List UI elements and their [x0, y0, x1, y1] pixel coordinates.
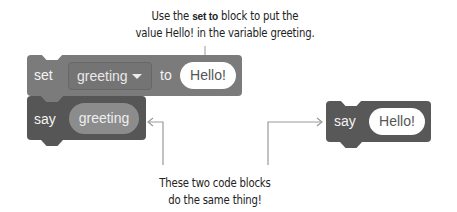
bottom-annotation-line1: These two code blocks: [131, 175, 298, 192]
say-keyword: say: [34, 111, 56, 127]
value-input[interactable]: Hello!: [180, 62, 236, 89]
left-arrow-line: [149, 122, 163, 165]
set-variable-block[interactable]: set greeting to Hello!: [27, 55, 242, 96]
say-variable-block[interactable]: say greeting: [27, 96, 146, 140]
say-keyword-right: say: [334, 113, 356, 129]
bottom-annotation-line2: do the same thing!: [131, 192, 298, 209]
greeting-reporter[interactable]: greeting: [69, 103, 139, 134]
right-arrow-line: [268, 122, 321, 165]
set-keyword: set: [34, 67, 53, 83]
variable-dropdown[interactable]: greeting: [68, 62, 152, 90]
greeting-reporter-text: greeting: [79, 110, 130, 126]
bottom-annotation: These two code blocks do the same thing!: [131, 175, 298, 209]
to-keyword: to: [160, 67, 172, 83]
variable-dropdown-value: greeting: [77, 68, 128, 84]
say-value-input[interactable]: Hello!: [369, 108, 425, 135]
say-literal-block[interactable]: say Hello!: [326, 101, 431, 142]
say-value-input-text: Hello!: [379, 113, 415, 129]
value-input-text: Hello!: [190, 67, 226, 83]
chevron-down-icon: [132, 74, 142, 79]
